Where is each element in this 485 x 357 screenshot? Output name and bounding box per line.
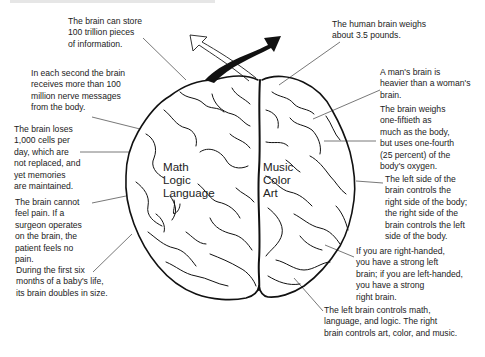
- annotation-handedness: If you are right-handed, you have a stro…: [356, 246, 463, 303]
- annotation-baby-growth: During the first six months of a baby's …: [16, 265, 108, 299]
- annotation-weight: The human brain weighs about 3.5 pounds.: [332, 19, 426, 42]
- brain-outline: [126, 76, 355, 299]
- left-hemisphere-label: Math Logic Language: [163, 160, 215, 199]
- annotation-no-pain: The brain cannot feel pain. If a surgeon…: [15, 197, 82, 265]
- annotation-functions: The left brain controls math, language, …: [324, 305, 457, 339]
- annotation-cross-control: The left side of the brain controls the …: [385, 174, 467, 242]
- right-hemisphere-label: Music Color Art: [263, 160, 293, 199]
- annotation-man-vs-woman: A man's brain is heavier than a woman's …: [380, 67, 471, 101]
- annotation-nerve-messages: In each second the brain receives more t…: [31, 68, 125, 114]
- annotation-oxygen: The brain weighs one-fiftieth as much as…: [380, 104, 454, 172]
- annotation-cell-loss: The brain loses 1,000 cells per day, whi…: [14, 124, 80, 192]
- annotation-storage: The brain can store 100 trillion pieces …: [68, 16, 142, 50]
